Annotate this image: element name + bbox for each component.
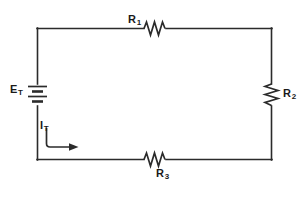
wire-loop [37,28,272,160]
resistor-r2-symbol [265,84,278,106]
battery-symbol [28,87,47,102]
circuit-schematic-canvas [0,0,306,197]
source-voltage-label: ET [10,84,23,95]
resistor-r1-symbol [144,22,165,35]
resistor-r3-symbol [144,153,165,166]
series-circuit-diagram: R1 R2 R3 ET IT [0,0,306,197]
resistor-r1-label: R1 [128,14,141,25]
current-direction-arrow [47,128,79,151]
resistor-r3-label: R3 [156,168,169,179]
resistor-r2-label: R2 [283,88,296,99]
total-current-label: IT [40,120,48,131]
arrowhead-icon [69,143,79,151]
